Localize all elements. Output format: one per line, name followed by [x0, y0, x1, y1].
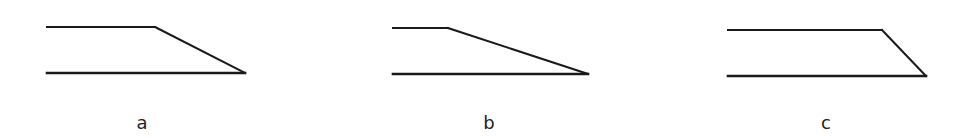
panel-c-label: c — [821, 114, 831, 132]
panel-c — [728, 30, 926, 76]
panel-a-label: a — [136, 114, 147, 132]
panel-a-slant-line — [155, 27, 245, 73]
panel-b-label: b — [483, 114, 494, 132]
panel-c-slant-line — [882, 30, 926, 76]
panel-b — [393, 28, 588, 74]
panel-a — [47, 27, 245, 73]
panel-b-slant-line — [448, 28, 588, 74]
